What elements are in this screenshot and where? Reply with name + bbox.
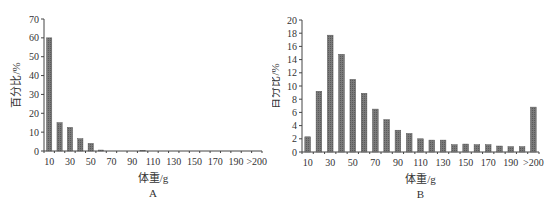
x-tick-label: 90 (393, 157, 403, 168)
bar-30 (67, 127, 72, 151)
x-tick-label: 170 (208, 156, 223, 167)
bar-40 (78, 139, 83, 151)
y-tick-label: 10 (29, 127, 39, 138)
bar-20 (57, 123, 62, 151)
panel-label: B (417, 188, 424, 200)
bar-chart-b: 0246810121416182010305070901101301501701… (272, 0, 549, 208)
bar-chart-a: 0102030405060701030507090110130150170190… (0, 0, 272, 208)
x-tick-label: 110 (413, 157, 428, 168)
bar-180 (497, 146, 503, 152)
bar-30 (327, 35, 333, 152)
bar-120 (429, 140, 435, 152)
x-tick-label: 170 (481, 157, 496, 168)
x-tick-label: 190 (229, 156, 244, 167)
panel-label: A (149, 187, 157, 199)
bar-100 (406, 134, 412, 152)
y-axis-title: 百分比/% (272, 63, 281, 108)
x-tick-label: 30 (65, 156, 75, 167)
bar-60 (99, 150, 104, 151)
x-tick-label: 70 (370, 157, 380, 168)
bar-140 (452, 145, 458, 152)
y-tick-label: 70 (29, 14, 39, 25)
y-tick-label: 20 (287, 15, 297, 26)
x-tick-label: 190 (503, 157, 518, 168)
x-axis-title: 体重/g (138, 171, 169, 184)
y-axis-title: 百分比/% (10, 62, 22, 107)
x-tick-label: 70 (106, 156, 116, 167)
bar-80 (384, 120, 390, 152)
y-tick-label: 60 (29, 32, 39, 43)
x-tick-label: 150 (458, 157, 473, 168)
y-tick-label: 0 (292, 147, 297, 158)
y-tick-label: 16 (287, 41, 297, 52)
x-tick-label: 50 (86, 156, 96, 167)
bar-100 (140, 150, 145, 151)
x-tick-label: 130 (436, 157, 451, 168)
bar-50 (88, 143, 93, 151)
y-tick-label: 8 (292, 94, 297, 105)
bar-10 (305, 137, 311, 152)
bar-160 (474, 145, 480, 152)
bar-20 (316, 91, 322, 152)
bar-10 (47, 38, 52, 151)
bar-170 (485, 145, 491, 152)
chart-panel-a: 0102030405060701030507090110130150170190… (0, 0, 272, 208)
x-axis-title: 体重/g (405, 172, 436, 185)
x-tick-label: 110 (146, 156, 161, 167)
y-tick-label: 30 (29, 89, 39, 100)
y-tick-label: 6 (292, 107, 297, 118)
y-tick-label: 40 (29, 70, 39, 81)
x-tick-label: 10 (44, 156, 54, 167)
x-tick-label: >200 (523, 157, 544, 168)
x-tick-label: 90 (127, 156, 137, 167)
bar-130 (440, 140, 446, 152)
y-tick-label: 12 (287, 67, 297, 78)
y-tick-label: 14 (287, 54, 297, 65)
y-tick-label: 4 (292, 120, 297, 131)
bar-50 (350, 79, 356, 152)
bar-90 (395, 130, 401, 152)
y-tick-label: 0 (34, 146, 39, 157)
x-tick-label: 10 (303, 157, 313, 168)
x-tick-label: 150 (187, 156, 202, 167)
y-tick-label: 2 (292, 133, 297, 144)
x-tick-label: >200 (246, 156, 267, 167)
x-tick-label: 130 (166, 156, 181, 167)
x-tick-label: 30 (325, 157, 335, 168)
bar-70 (373, 109, 379, 152)
y-tick-label: 18 (287, 28, 297, 39)
bar-200 (519, 147, 525, 152)
y-tick-label: 50 (29, 51, 39, 62)
y-tick-label: 10 (287, 81, 297, 92)
bar-110 (418, 139, 424, 152)
y-tick-label: 20 (29, 108, 39, 119)
bar-150 (463, 144, 469, 152)
bar-190 (508, 147, 514, 152)
bar->200 (531, 107, 537, 152)
bar-40 (339, 54, 345, 152)
x-tick-label: 50 (348, 157, 358, 168)
chart-panel-b: 0246810121416182010305070901101301501701… (272, 0, 549, 208)
bar-60 (361, 93, 367, 152)
